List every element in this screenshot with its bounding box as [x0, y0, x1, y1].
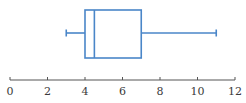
axis-tick-label: 10: [191, 85, 205, 98]
axis-tick-label: 12: [228, 85, 242, 98]
axis-tick-label: 8: [157, 85, 164, 98]
axis-tick-label: 0: [7, 85, 14, 98]
axis-tick-label: 6: [119, 85, 126, 98]
box-plot-chart: 024681012: [0, 0, 246, 103]
axis-tick-label: 2: [44, 85, 51, 98]
interquartile-box: [85, 10, 141, 58]
box-plot: [66, 10, 216, 58]
axis-tick-label: 4: [82, 85, 89, 98]
x-axis: 024681012: [7, 77, 243, 98]
